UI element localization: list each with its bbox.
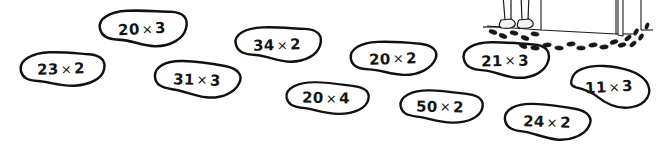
shoes	[499, 19, 533, 28]
expression-blob-204[interactable]: 20×4	[278, 77, 375, 119]
expression-blob-502[interactable]: 50×2	[392, 85, 489, 128]
expression-blob-113[interactable]: 11×3	[561, 59, 658, 116]
blob-shape	[561, 59, 658, 116]
expression-blob-203[interactable]: 20×3	[91, 3, 193, 54]
legs	[503, 0, 529, 20]
blob-shape	[278, 77, 375, 119]
expression-blob-202[interactable]: 20×2	[343, 35, 442, 81]
blob-shape	[91, 3, 193, 54]
blob-shape	[392, 85, 489, 128]
wall	[487, 0, 633, 34]
scene-drawing	[481, 0, 661, 62]
blob-shape	[343, 35, 442, 81]
worksheet-canvas: 23×2 20×3 31×3 34×2 20×4	[0, 0, 661, 147]
blob-shape	[227, 21, 326, 68]
expression-blob-342[interactable]: 34×2	[227, 21, 326, 68]
muddy-footprints-scene	[481, 0, 661, 62]
